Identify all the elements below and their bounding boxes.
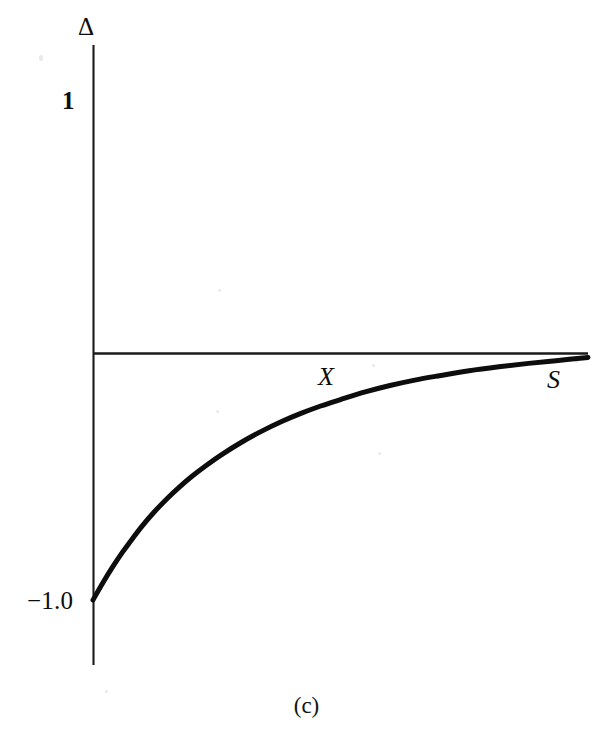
plot-canvas <box>0 0 613 733</box>
figure-panel-c: Δ 1 −1.0 X S (c) <box>0 0 613 733</box>
y-tick-label-minus-one: −1.0 <box>27 588 73 613</box>
y-tick-label-one: 1 <box>62 88 75 113</box>
delta-curve <box>93 357 588 600</box>
x-axis-label-underlying-price: S <box>547 367 560 393</box>
strike-price-label: X <box>318 364 334 390</box>
y-axis-label-delta: Δ <box>78 14 94 39</box>
panel-caption: (c) <box>0 694 613 717</box>
